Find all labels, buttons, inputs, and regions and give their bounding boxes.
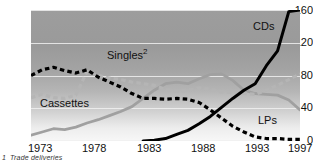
series-label-lps: LPs — [258, 115, 277, 126]
x-axis-tick-1973: 1973 — [28, 143, 52, 154]
chart-figure: 160 120 80 40 0 1973 1978 1983 1988 1993… — [0, 0, 313, 166]
plot-area: Singles2 Cassettes CDs LPs — [31, 10, 300, 141]
footnote-marker: 1 — [2, 154, 6, 161]
series-label-cassettes: Cassettes — [40, 98, 89, 109]
x-axis-tick-1997: 1997 — [288, 143, 312, 154]
series-label-cds: CDs — [253, 21, 274, 32]
series-label-singles: Singles2 — [107, 48, 148, 61]
x-axis-tick-1988: 1988 — [191, 143, 215, 154]
footnote-text: Trade deliveries — [10, 154, 62, 161]
x-axis-tick-1978: 1978 — [82, 143, 106, 154]
series-label-singles-text: Singles — [107, 49, 143, 61]
footnote: 1Trade deliveries — [2, 154, 63, 161]
x-axis-tick-1983: 1983 — [137, 143, 161, 154]
x-axis-tick-1993: 1993 — [245, 143, 269, 154]
singles-footnote-marker: 2 — [143, 47, 147, 56]
